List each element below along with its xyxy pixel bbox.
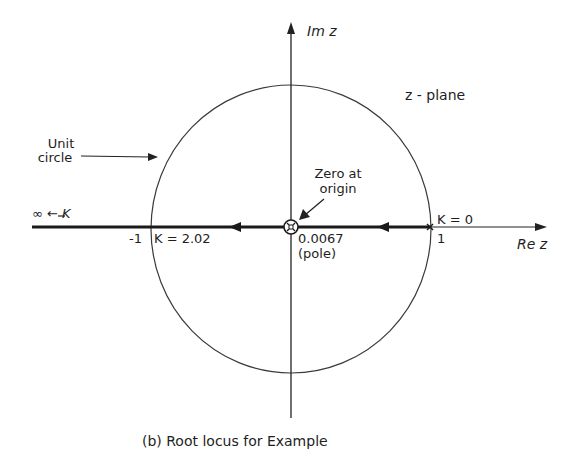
k-breakaway-label: K = 2.02	[154, 231, 211, 246]
real-axis-arrow-icon	[535, 223, 547, 231]
zero-pointer	[305, 199, 324, 215]
unit-circle-pointer-arrow-icon	[148, 153, 158, 161]
k-infinity-label: ∞ ← K	[32, 206, 71, 221]
one-label: 1	[437, 231, 445, 246]
zero-label-line1: Zero at	[305, 166, 371, 181]
zero-pointer-arrow-icon	[299, 209, 310, 220]
unit-circle-label-line2: circle	[30, 150, 80, 165]
minus-one-label: -1	[129, 231, 142, 246]
pole-note-label: (pole)	[298, 246, 336, 261]
locus-arrow-left-icon	[229, 222, 241, 232]
unit-circle-label-line1: Unit	[36, 136, 86, 151]
zero-and-pole-at-origin-icon	[284, 220, 298, 234]
zero-label-line2: origin	[305, 181, 371, 196]
figure-caption: (b) Root locus for Example	[142, 434, 328, 449]
locus-arrow-right-icon	[377, 222, 389, 232]
imaginary-axis-label: Im z	[307, 24, 337, 39]
pole-value-label: 0.0067	[298, 231, 344, 246]
imaginary-axis-arrow-icon	[287, 22, 295, 34]
k-zero-label: K = 0	[437, 212, 473, 227]
unit-circle-pointer	[81, 156, 150, 157]
real-axis-label: Re z	[517, 237, 547, 252]
z-plane-label: z - plane	[405, 88, 465, 103]
